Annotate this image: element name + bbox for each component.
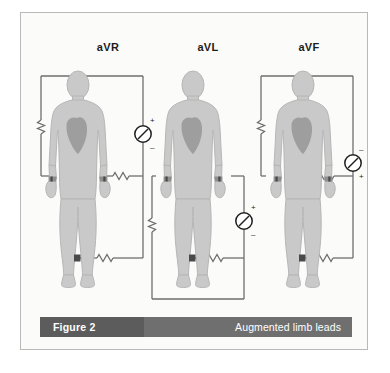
avf-meter-plus: + <box>359 172 364 181</box>
avr-meter-plus: + <box>150 116 155 125</box>
figure-title-label: Augmented limb leads <box>235 321 341 333</box>
lead-circuit-avr: + – <box>38 71 156 288</box>
avr-resistor-ankle <box>97 255 113 262</box>
avf-meter-minus: – <box>359 145 364 154</box>
avl-meter-minus: – <box>251 230 256 239</box>
avf-resistor-left <box>258 120 265 134</box>
lead-circuit-avf: – + <box>258 71 365 288</box>
lead-circuit-avl: + – <box>149 71 257 299</box>
avr-resistor-right-arm <box>113 173 129 180</box>
avl-meter <box>236 213 252 229</box>
figure-panel: aVR aVL aVF <box>20 12 368 350</box>
figure-caption-title-block: Augmented limb leads <box>144 317 352 337</box>
figure-number-label: Figure 2 <box>53 321 95 333</box>
figure-caption-label-block: Figure 2 <box>40 317 144 337</box>
avf-meter <box>345 155 361 171</box>
ecg-leads-diagram: + – <box>21 13 369 351</box>
figure-caption-bar: Figure 2 Augmented limb leads <box>40 317 352 337</box>
avr-meter <box>135 126 151 142</box>
avl-meter-plus: + <box>251 203 256 212</box>
avl-resistor-left <box>149 218 156 232</box>
avr-resistor-left <box>38 120 45 134</box>
avr-meter-minus: – <box>150 143 155 152</box>
